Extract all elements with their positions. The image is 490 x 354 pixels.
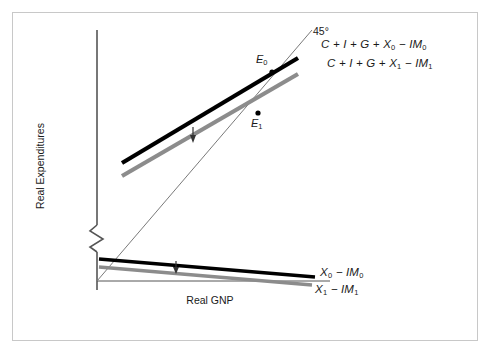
series-label-1-tail: − IM [401, 57, 428, 69]
series-label-nx1-sub: 1 [323, 288, 327, 297]
series-aggregate-expenditure-1 [122, 74, 298, 176]
series-label-nx0-tail: − IM [332, 266, 359, 278]
series-label-net-exports-1: X1 − IM1 [315, 284, 359, 296]
figure-root: 45° C + I + G + X0 − IM0 C + I + G + X1 … [0, 0, 490, 354]
series-label-aggregate-expenditure-0: C + I + G + X0 − IM0 [321, 39, 427, 51]
shift-arrow-upper [190, 127, 196, 143]
series-label-nx0-main: X [320, 266, 328, 278]
marker-label-e0-sub: 0 [263, 58, 267, 67]
series-label-0-tail: − IM [395, 38, 422, 50]
marker-label-e1-sub: 1 [258, 122, 262, 131]
series-label-nx1-tail-sub: 1 [354, 288, 358, 297]
series-label-0-sub: 0 [391, 43, 395, 52]
series-label-1-tail-sub: 1 [428, 62, 432, 71]
series-label-nx1-main: X [315, 283, 323, 295]
series-label-net-exports-0: X0 − IM0 [320, 267, 364, 279]
series-label-aggregate-expenditure-1: C + I + G + X1 − IM1 [327, 58, 433, 70]
series-label-1-main: C + I + G + X [327, 57, 397, 69]
y-axis-break-icon [90, 225, 103, 252]
x-axis-label: Real GNP [155, 295, 265, 306]
marker-e0 [269, 69, 274, 74]
series-label-1-sub: 1 [397, 62, 401, 71]
series-label-0-tail-sub: 0 [422, 43, 426, 52]
series-label-nx0-tail-sub: 0 [359, 271, 363, 280]
marker-label-e0: E0 [256, 54, 268, 65]
marker-e1 [255, 110, 260, 115]
series-net-exports-1 [99, 267, 312, 285]
series-label-0-main: C + I + G + X [321, 38, 391, 50]
y-axis-label: Real Expenditures [34, 106, 46, 226]
series-label-nx0-sub: 0 [328, 271, 332, 280]
marker-label-e1: E1 [251, 118, 263, 129]
line45-label: 45° [313, 26, 329, 37]
series-label-nx1-tail: − IM [327, 283, 354, 295]
